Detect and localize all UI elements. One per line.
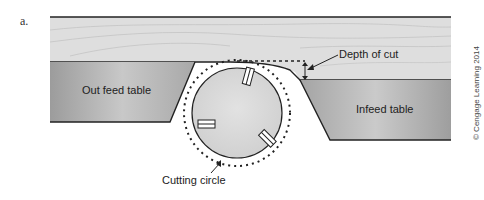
knife-left (198, 120, 215, 128)
outfeed-table-label: Out feed table (82, 84, 151, 96)
copyright-credit: © Cengage Learning 2014 (472, 46, 481, 140)
depth-of-cut-label: Depth of cut (339, 48, 398, 60)
infeed-table-label: Infeed table (356, 103, 414, 115)
cutting-circle-pointer (211, 160, 221, 173)
jointer-diagram (0, 0, 484, 200)
cutterhead (184, 60, 290, 166)
cutting-circle-label: Cutting circle (162, 174, 226, 186)
